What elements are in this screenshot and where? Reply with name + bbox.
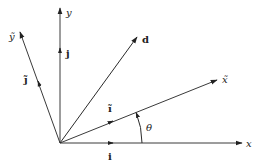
x-tilde-axis-label: x̃: [222, 74, 228, 85]
unit-vector-j-tilde: [38, 81, 39, 85]
theta-angle-arc: [136, 113, 142, 144]
y-tilde-axis-label: ỹ: [8, 31, 15, 42]
x-axis-label: x: [246, 138, 252, 149]
vector-d-label: d: [142, 34, 149, 45]
y-axis-label: y: [65, 7, 72, 18]
theta-angle-label: θ: [146, 122, 152, 133]
unit-vector-j-label: j: [65, 48, 70, 59]
y-tilde-axis: [20, 32, 60, 143]
unit-vector-i-label: i: [108, 151, 112, 162]
unit-vector-j-tilde-label: j̃: [23, 74, 28, 85]
unit-vector-i-tilde-label: ĩ: [108, 103, 112, 114]
x-tilde-axis: [60, 80, 217, 143]
coordinate-rotation-diagram: xyx̃ỹijĩj̃dθ: [0, 0, 263, 162]
